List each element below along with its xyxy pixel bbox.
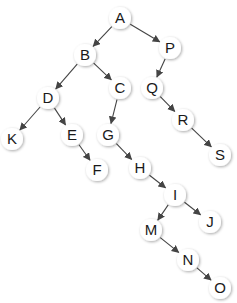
node-M: M: [140, 219, 162, 241]
edge-R-S: [192, 128, 212, 147]
node-label: M: [145, 221, 158, 238]
node-label: E: [67, 126, 77, 143]
node-label: H: [135, 159, 146, 176]
node-G: G: [97, 124, 119, 146]
node-label: D: [43, 89, 54, 106]
node-label: P: [165, 39, 175, 56]
edge-A-P: [130, 24, 159, 42]
node-label: N: [183, 251, 194, 268]
edge-C-G: [111, 100, 117, 124]
edge-D-K: [20, 107, 40, 130]
node-label: O: [214, 279, 226, 296]
node-Q: Q: [141, 77, 163, 99]
node-A: A: [109, 7, 131, 29]
node-S: S: [209, 144, 231, 166]
node-label: C: [115, 79, 126, 96]
edge-I-M: [158, 205, 168, 220]
edge-M-N: [160, 238, 178, 253]
node-label: J: [206, 213, 214, 230]
node-label: F: [92, 161, 101, 178]
node-D: D: [37, 87, 59, 109]
node-H: H: [129, 157, 151, 179]
node-I: I: [164, 184, 186, 206]
edge-G-H: [116, 144, 131, 160]
node-label: B: [80, 46, 90, 63]
node-label: Q: [146, 79, 158, 96]
node-N: N: [177, 249, 199, 271]
node-R: R: [172, 109, 194, 131]
node-label: A: [115, 9, 125, 26]
node-F: F: [86, 159, 108, 181]
edge-H-I: [150, 175, 166, 187]
edge-B-D: [56, 64, 77, 89]
edge-A-B: [93, 27, 112, 47]
edge-N-O: [197, 268, 211, 280]
node-label: R: [178, 111, 189, 128]
node-J: J: [199, 211, 221, 233]
node-label: S: [215, 146, 225, 163]
node-E: E: [61, 124, 83, 146]
edge-I-J: [185, 202, 201, 214]
edge-D-E: [55, 108, 66, 125]
node-B: B: [74, 44, 96, 66]
node-label: K: [7, 130, 17, 147]
edge-E-F: [79, 145, 90, 160]
edges-layer: [20, 24, 211, 280]
node-O: O: [209, 277, 231, 299]
node-P: P: [159, 37, 181, 59]
tree-diagram: ABPDCQKEGRSFHIMJNO: [0, 0, 237, 303]
edge-B-C: [94, 63, 112, 80]
edge-Q-R: [160, 97, 174, 112]
nodes-layer: ABPDCQKEGRSFHIMJNO: [1, 7, 231, 299]
edge-P-Q: [157, 59, 165, 77]
node-label: I: [173, 186, 177, 203]
node-label: G: [102, 126, 114, 143]
node-C: C: [109, 77, 131, 99]
node-K: K: [1, 128, 23, 150]
